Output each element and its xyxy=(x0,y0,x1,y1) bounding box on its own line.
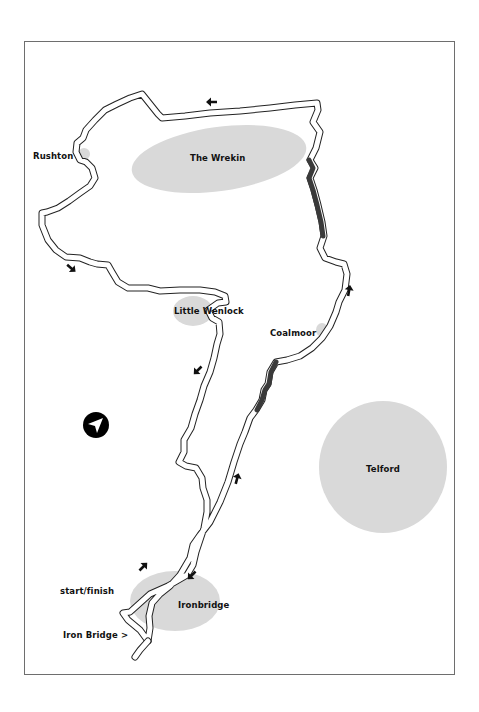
climb-section xyxy=(257,362,276,410)
area-layer xyxy=(78,115,447,631)
direction-arrow-icon xyxy=(206,98,217,107)
label-little-wenlock: Little Wenlock xyxy=(174,306,244,316)
direction-arrow-icon xyxy=(64,261,78,275)
route-map xyxy=(0,0,479,712)
label-telford: Telford xyxy=(366,464,400,474)
label-coalmoor: Coalmoor xyxy=(270,328,316,338)
label-rushton: Rushton xyxy=(33,151,73,161)
label-ironbridge: Ironbridge xyxy=(178,600,229,610)
label-start-finish: start/finish xyxy=(60,586,114,596)
direction-arrow-icon xyxy=(191,363,205,377)
direction-arrow-icon xyxy=(136,560,150,574)
compass-arrow-icon xyxy=(83,412,109,438)
label-the-wrekin: The Wrekin xyxy=(190,153,245,163)
label-iron-bridge: Iron Bridge > xyxy=(63,630,128,640)
